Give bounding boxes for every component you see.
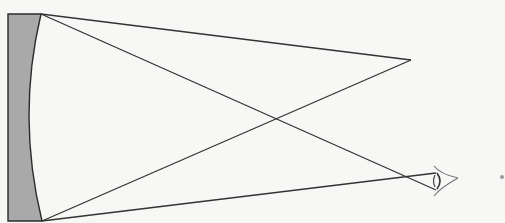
ray-diagram bbox=[0, 0, 505, 223]
ray-line bbox=[42, 60, 411, 221]
speck-dot bbox=[500, 175, 504, 179]
eye-icon bbox=[434, 166, 459, 196]
concave-mirror bbox=[8, 14, 42, 221]
light-rays bbox=[41, 14, 436, 221]
ray-line bbox=[41, 14, 411, 60]
diagram-canvas bbox=[0, 0, 505, 223]
ray-line bbox=[41, 14, 436, 190]
ray-line bbox=[42, 173, 436, 221]
